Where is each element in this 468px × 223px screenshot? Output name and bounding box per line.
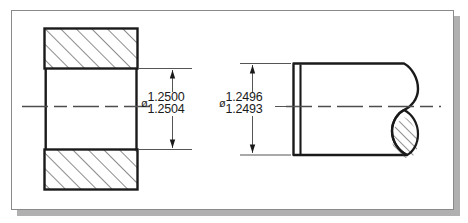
- shaft-diameter-dimension-text: ø1.24961.2493: [219, 92, 263, 115]
- shaft-view: [240, 64, 441, 166]
- shaft-lower-limit: 1.2493: [226, 104, 263, 116]
- hole-arrowhead-bottom: [170, 140, 175, 149]
- shaft-arrowhead-top: [250, 65, 255, 74]
- shaft-tolerance-stack: 1.24961.2493: [226, 92, 263, 115]
- hole-tolerance-stack: 1.25001.2504: [148, 92, 185, 115]
- hole-lower-limit: 1.2504: [148, 104, 185, 116]
- hole-arrowhead-top: [170, 70, 175, 79]
- shaft-arrowhead-bottom: [250, 145, 255, 154]
- hole-diameter-dimension-text: ø1.25001.2504: [141, 92, 185, 115]
- engineering-drawing-screenshot: ø1.25001.2504 ø1.24961.2493: [0, 0, 468, 223]
- hole-upper-section-block: [45, 29, 138, 69]
- hole-lower-section-block: [45, 150, 138, 190]
